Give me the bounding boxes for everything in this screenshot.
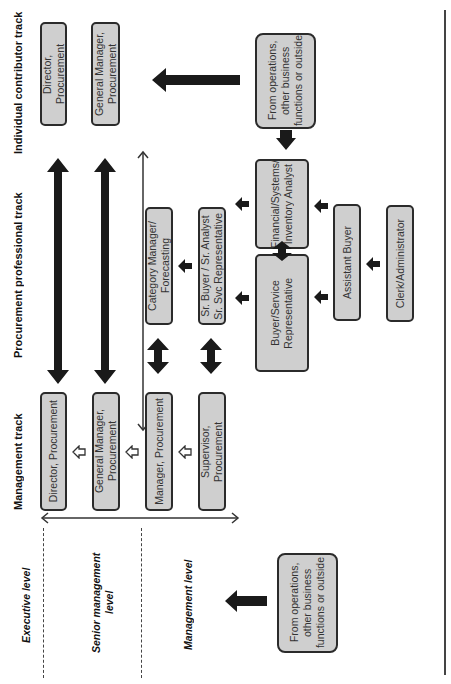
arrow-external-to-ic [152,68,240,92]
arrow-up-to-category-manager [178,259,192,273]
financial-analyst-label: Financial/Systems/ Inventory Analyst [269,160,295,248]
double-arrow-general-manager [93,158,117,384]
external-source-top-label: From operations, other business function… [266,35,305,126]
arrow-buyer-to-sr-buyer [235,291,249,305]
ic-director-box: Director, Procurement [40,22,67,126]
mgmt-manager-label: Manager, Procurement [153,398,166,505]
level-divider-2 [141,528,142,678]
track-heading-management: Management track [12,412,25,512]
track-heading-professional: Procurement professional track [12,180,25,370]
arrow-financial-to-sr-buyer [235,197,249,211]
mgmt-supervisor-label: Supervisor, Procurement [199,394,225,509]
double-arrow-supervisor [199,338,223,374]
external-source-top-box: From operations, other business function… [255,33,316,129]
track-heading-individual: Individual contributor track [12,8,25,158]
clerk-label: Clerk/Administrator [394,219,407,308]
assistant-buyer-box: Assistant Buyer [333,204,361,321]
arrow-assistant-to-financial [314,199,328,213]
mgmt-supervisor-box: Supervisor, Procurement [198,392,226,511]
mgmt-director-label: Director, Procurement [47,400,60,502]
mgmt-general-manager-label: General Manager, Procurement [93,409,119,493]
ic-director-label: Director, Procurement [41,24,67,124]
arrow-external-to-professional [276,130,296,150]
buyer-service-box: Buyer/Service Representative [255,254,309,372]
category-manager-box: Category Manager/ Forecasting [145,207,173,325]
category-manager-label: Category Manager/ Forecasting [146,221,172,311]
sr-buyer-box: Sr. Buyer / Sr. Analyst Sr. Svc Represen… [198,207,226,325]
level-span-arrow [38,510,242,526]
assistant-buyer-label: Assistant Buyer [341,226,354,299]
double-arrow-manager [146,338,170,374]
double-arrow-director [46,158,70,384]
hollow-arrow-manager-to-gm [125,445,139,459]
ic-general-manager-box: General Manager, Procurement [91,22,120,126]
arrow-clerk-to-assistant [366,257,380,271]
external-source-bottom-label: From operations, other business function… [288,557,327,648]
mgmt-director-box: Director, Procurement [40,392,67,511]
buyer-service-label: Buyer/Service Representative [269,278,295,349]
level-executive: Executive level [20,560,33,650]
page-border-line [444,10,446,675]
arrow-external-to-management [225,590,267,612]
financial-analyst-box: Financial/Systems/ Inventory Analyst [255,159,309,249]
clerk-box: Clerk/Administrator [386,205,414,322]
level-management: Management level [182,555,195,655]
mgmt-general-manager-box: General Manager, Procurement [92,392,120,511]
external-source-bottom-box: From operations, other business function… [277,553,338,653]
arrow-assistant-to-buyer [314,290,328,304]
level-divider-1 [43,528,44,678]
hollow-arrow-supervisor-to-manager [178,445,192,459]
double-arrow-financial-buyer [272,241,292,261]
sr-buyer-label: Sr. Buyer / Sr. Analyst Sr. Svc Represen… [199,213,225,320]
ic-general-manager-label: General Manager, Procurement [93,32,119,116]
hollow-arrow-gm-to-director [72,445,86,459]
level-senior-management: Senior management level [90,540,116,665]
mgmt-manager-box: Manager, Procurement [145,392,173,511]
